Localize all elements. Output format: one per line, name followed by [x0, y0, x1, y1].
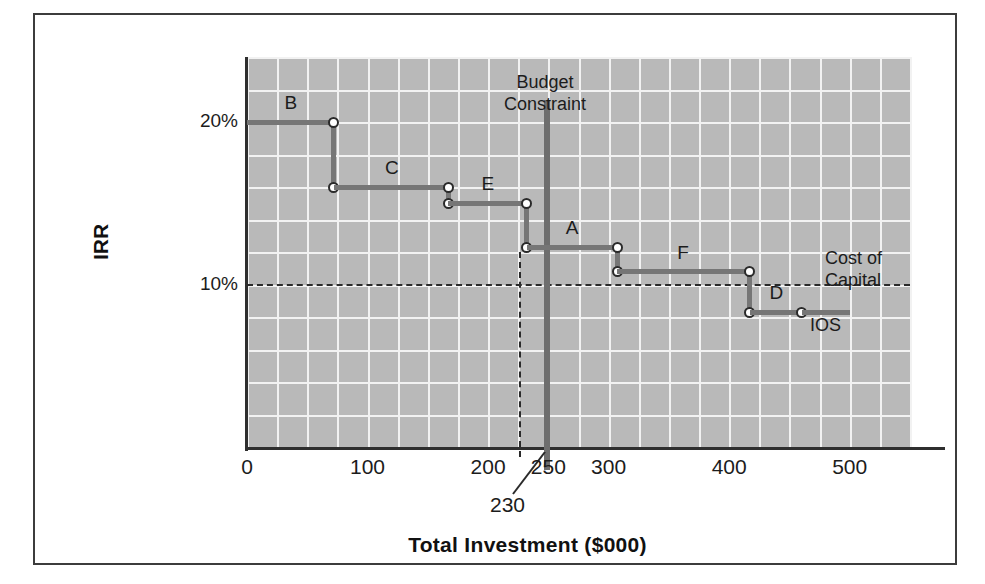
y-axis-tick-labels: 20%10% [135, 15, 238, 584]
y-gridline [247, 382, 910, 384]
ios-step-node [443, 182, 454, 193]
budget-constraint-line [544, 100, 550, 470]
cost-of-capital-label-line2: Capital [825, 269, 945, 291]
figure-frame: Budget Constraint Cost of Capital IOS 20… [33, 13, 957, 565]
x-axis-tick-label: 400 [712, 455, 747, 479]
accepted-investment-label: 230 [490, 493, 525, 517]
y-gridline [247, 350, 910, 352]
x-axis-tick-label: 0 [241, 455, 253, 479]
plot-area [247, 57, 910, 447]
ios-curve-label: IOS [810, 315, 841, 336]
budget-constraint-label: Budget Constraint [460, 71, 630, 115]
cost-of-capital-label: Cost of Capital [825, 247, 945, 291]
accepted-investment-dropline [519, 252, 521, 457]
ios-step-riser [331, 122, 336, 187]
ios-step-segment [334, 185, 449, 190]
y-gridline [247, 155, 910, 157]
x-axis-tick-label: 100 [350, 455, 385, 479]
x-axis-title: Total Investment ($000) [35, 533, 985, 557]
cost-of-capital-line [247, 284, 910, 286]
ios-step-node [612, 242, 623, 253]
x-axis-tick-label: 500 [832, 455, 867, 479]
y-gridline [247, 415, 910, 417]
ios-step-segment [617, 269, 750, 274]
y-axis-tick-label: 10% [200, 273, 238, 295]
budget-constraint-label-line2: Constraint [460, 93, 630, 115]
project-label-d: D [770, 282, 784, 304]
chart-figure: Budget Constraint Cost of Capital IOS 20… [0, 0, 985, 584]
y-gridline [247, 57, 910, 59]
project-label-c: C [385, 157, 399, 179]
ios-step-segment [247, 120, 334, 125]
cost-of-capital-label-line1: Cost of [825, 247, 945, 269]
ios-step-tail [802, 310, 850, 315]
ios-step-node [521, 198, 532, 209]
ios-step-riser [524, 203, 529, 247]
y-axis-title: IRR [89, 224, 113, 260]
ios-step-segment [448, 201, 526, 206]
project-label-b: B [284, 92, 297, 114]
x-axis-tick-label: 250 [531, 455, 566, 479]
y-gridline [247, 252, 910, 254]
ios-step-node [328, 117, 339, 128]
y-axis-tick-label: 20% [200, 110, 238, 132]
ios-step-segment [750, 310, 802, 315]
x-axis-line [245, 447, 945, 450]
y-gridline [247, 122, 910, 124]
y-axis-line [245, 57, 248, 451]
project-label-e: E [481, 173, 494, 195]
ios-step-segment [527, 245, 617, 250]
project-label-f: F [677, 242, 689, 264]
budget-constraint-label-line1: Budget [460, 71, 630, 93]
x-axis-tick-label: 200 [471, 455, 506, 479]
x-axis-tick-label: 300 [591, 455, 626, 479]
project-label-a: A [566, 217, 579, 239]
